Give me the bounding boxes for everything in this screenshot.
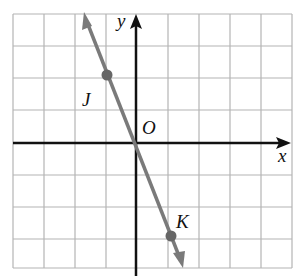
x-axis-label: x — [278, 146, 286, 165]
point-j — [102, 70, 113, 81]
grid-lines — [13, 14, 292, 268]
line-jk — [82, 12, 185, 268]
point-k-label: K — [176, 212, 189, 231]
coordinate-graph — [0, 0, 295, 276]
line-arrow-down-icon — [173, 251, 185, 268]
point-j-label: J — [82, 90, 90, 109]
x-axis — [13, 137, 291, 149]
origin-label: O — [142, 118, 156, 137]
y-axis-label: y — [117, 11, 125, 30]
point-k — [166, 231, 177, 242]
